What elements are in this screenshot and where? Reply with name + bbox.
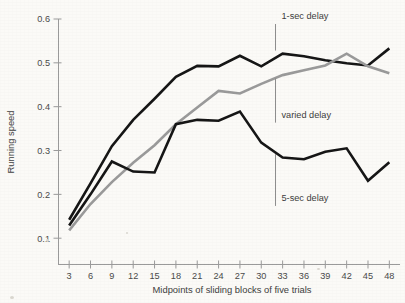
y-tick-label: 0.6 (37, 14, 50, 24)
series-line-5-sec-delay (69, 112, 389, 226)
x-tick-label: 39 (320, 271, 330, 281)
x-tick-group: 36912151821242730333639424548 (67, 261, 395, 282)
line-chart-canvas: 0.60.50.40.30.20.1 369121518212427303336… (0, 0, 405, 303)
x-tick-label: 15 (149, 271, 159, 281)
x-tick-label: 48 (384, 271, 394, 281)
x-tick-label: 3 (67, 271, 72, 281)
chart-figure: 0.60.50.40.30.20.1 369121518212427303336… (0, 0, 405, 303)
annotation-label-five-sec: 5-sec delay (281, 193, 328, 203)
series-group (69, 48, 389, 230)
y-tick-label: 0.1 (37, 234, 50, 244)
annotation-label-one-sec: 1-sec delay (281, 11, 328, 21)
y-tick-label: 0.5 (37, 58, 50, 68)
y-tick-label: 0.2 (37, 190, 50, 200)
x-tick-label: 36 (299, 271, 309, 281)
x-tick-label: 9 (109, 271, 114, 281)
series-line-varied-delay (69, 54, 389, 231)
x-tick-label: 12 (128, 271, 138, 281)
y-axis-title: Running speed (5, 110, 16, 173)
y-tick-group: 0.60.50.40.30.20.1 (37, 14, 61, 243)
x-tick-label: 27 (235, 271, 245, 281)
x-tick-label: 6 (88, 271, 93, 281)
x-tick-label: 24 (213, 271, 223, 281)
y-tick-label: 0.4 (37, 102, 50, 112)
x-tick-label: 42 (342, 271, 352, 281)
x-tick-label: 33 (277, 271, 287, 281)
y-tick-label: 0.3 (37, 146, 50, 156)
annotation-group: 1-sec delayvaried delay5-sec delay (275, 11, 331, 206)
x-tick-label: 30 (256, 271, 266, 281)
x-tick-label: 45 (363, 271, 373, 281)
x-axis-title: Midpoints of sliding blocks of five tria… (153, 284, 312, 295)
x-tick-label: 18 (171, 271, 181, 281)
series-line-1-sec-delay (69, 48, 389, 219)
x-tick-label: 21 (192, 271, 202, 281)
annotation-label-varied: varied delay (281, 110, 331, 120)
